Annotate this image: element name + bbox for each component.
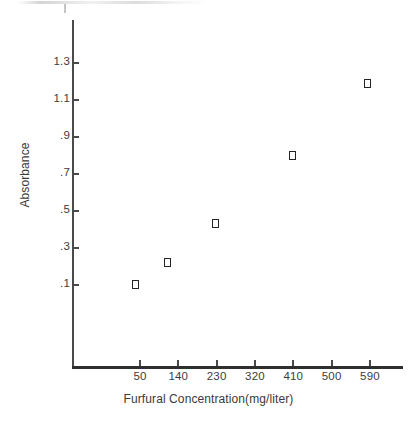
scan-artifact-smudge [18, 1, 208, 4]
data-point-marker [289, 151, 296, 160]
data-point-marker [364, 79, 371, 88]
x-axis-tick [139, 360, 141, 366]
y-axis-tick [74, 173, 79, 175]
x-axis-line [72, 366, 403, 369]
x-axis-tick-label: 590 [345, 370, 395, 382]
y-axis-tick [74, 136, 79, 138]
scan-artifact-mark [64, 4, 66, 13]
y-axis-tick [74, 99, 79, 101]
scatter-plot-figure: Furfural Concentration(mg/liter) Absorba… [0, 0, 417, 421]
y-axis-tick [74, 210, 79, 212]
y-axis-tick-label: .7 [60, 166, 70, 178]
data-point-marker [212, 219, 219, 228]
x-axis-tick [369, 360, 371, 366]
x-axis-tick [177, 360, 179, 366]
data-point-marker [164, 258, 171, 267]
x-axis-title: Furfural Concentration(mg/liter) [0, 392, 417, 406]
y-axis-tick-label: .5 [60, 203, 70, 215]
y-axis-tick [74, 284, 79, 286]
x-axis-tick [216, 360, 218, 366]
y-axis-tick-label: .3 [60, 240, 70, 252]
y-axis-tick-label: 1.3 [53, 55, 70, 67]
y-axis-line [72, 20, 74, 369]
y-axis-tick-label: .1 [60, 277, 70, 289]
x-axis-tick [254, 360, 256, 366]
x-axis-tick [292, 360, 294, 366]
y-axis-tick [74, 247, 79, 249]
x-axis-tick [331, 360, 333, 366]
y-axis-tick [74, 62, 79, 64]
y-axis-tick-label: .9 [60, 129, 70, 141]
y-axis-title: Absorbance [18, 130, 32, 220]
data-point-marker [132, 280, 139, 289]
y-axis-tick-label: 1.1 [53, 92, 70, 104]
